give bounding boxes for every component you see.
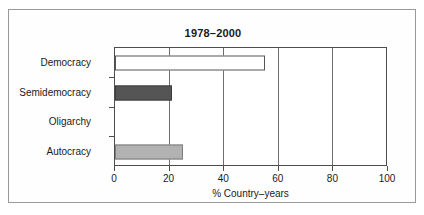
y-tick-label-semidemocracy: Semidemocracy	[0, 86, 91, 97]
x-tick-label-60: 60	[258, 173, 298, 184]
y-tick-mark-3	[109, 136, 114, 137]
figure-frame: 1978–2000 % Country–years DemocracySemid…	[8, 9, 416, 203]
y-tick-label-democracy: Democracy	[0, 56, 91, 67]
x-tick-label-20: 20	[149, 173, 189, 184]
y-tick-label-autocracy: Autocracy	[0, 146, 91, 157]
x-tick-label-80: 80	[312, 173, 352, 184]
y-tick-mark-1	[109, 77, 114, 78]
x-tick-mark-100	[387, 166, 388, 171]
y-tick-mark-2	[109, 107, 114, 108]
x-tick-mark-40	[223, 166, 224, 171]
bar-row-democracy	[115, 48, 386, 78]
bar-semidemocracy[interactable]	[115, 85, 172, 100]
x-tick-label-40: 40	[203, 173, 243, 184]
bar-democracy[interactable]	[115, 55, 265, 70]
x-tick-label-100: 100	[367, 173, 407, 184]
bar-row-oligarchy	[115, 108, 386, 138]
bar-autocracy[interactable]	[115, 145, 183, 160]
x-tick-mark-60	[278, 166, 279, 171]
x-axis-title: % Country–years	[114, 188, 387, 199]
y-tick-label-oligarchy: Oligarchy	[0, 116, 91, 127]
bar-row-autocracy	[115, 137, 386, 167]
x-tick-label-0: 0	[94, 173, 134, 184]
x-tick-mark-20	[169, 166, 170, 171]
x-tick-mark-0	[114, 166, 115, 171]
chart-title: 1978–2000	[9, 27, 417, 39]
bar-row-semidemocracy	[115, 78, 386, 108]
plot-area	[114, 47, 387, 166]
x-tick-mark-80	[332, 166, 333, 171]
